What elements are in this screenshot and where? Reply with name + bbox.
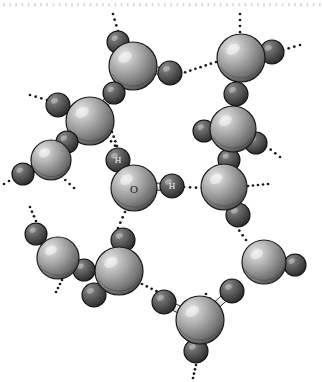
hydrogen-bond-dot (68, 183, 71, 186)
border-dot (158, 3, 160, 6)
border-dot (276, 3, 278, 6)
border-dot (28, 3, 30, 6)
border-dot (3, 3, 5, 6)
border-dot (65, 3, 67, 6)
hydrogen-bond-dot (204, 64, 207, 67)
hydrogen-bond-dot (239, 25, 242, 28)
hydrogen-bond-dot (238, 229, 241, 232)
hydrogen-bond-dot (35, 220, 38, 223)
hydrogen-bond-dot (239, 31, 242, 34)
oxygen-atom (37, 237, 79, 279)
hydrogen-bond-dot (29, 206, 32, 209)
hydrogen-bond-dot (115, 24, 118, 27)
oxygen-atom (201, 164, 247, 210)
border-dot (226, 3, 228, 6)
hydrogen-bond-dot (184, 71, 187, 74)
hydrogen-bond-dot (287, 47, 290, 50)
hydrogen-bond-dot (262, 183, 265, 186)
hydrogen-atom (103, 82, 125, 104)
hydrogen-bond-dot (8, 180, 11, 183)
hydrogen-bond-dot (121, 216, 124, 219)
hydrogen-bond-dot (55, 291, 58, 294)
hydrogen-bond-dot (239, 19, 242, 22)
border-dot (71, 3, 73, 6)
hydrogen-bond-dot (269, 148, 272, 151)
hydrogen-bond-dot (119, 221, 122, 224)
hydrogen-bond-dot (192, 377, 195, 380)
border-dot (232, 3, 234, 6)
border-dot (319, 3, 321, 6)
hydrogen-bond-dot (29, 94, 32, 97)
border-dot (46, 3, 48, 6)
border-dot (189, 3, 191, 6)
hydrogen-bond-dot (113, 18, 116, 21)
border-dot (146, 3, 148, 6)
oxygen-atom (217, 34, 265, 82)
hydrogen-bond-dot (31, 210, 34, 213)
hydrogen-bond-dot (299, 44, 302, 47)
hydrogen-atom (46, 93, 70, 117)
hydrogen-bond-dot (193, 372, 196, 375)
hydrogen-bond-dot (114, 140, 117, 143)
hydrogen-bond-dot (73, 187, 76, 190)
oxygen-atom (95, 247, 143, 295)
hydrogen-bond-dot (189, 69, 192, 72)
hydrogen-bond-dot (195, 186, 198, 189)
hydrogen-bond-dot (59, 283, 62, 286)
border-dot (133, 3, 135, 6)
border-dot (84, 3, 86, 6)
border-dot (251, 3, 253, 6)
hydrogen-bond-dot (199, 66, 202, 69)
border-dot (127, 3, 129, 6)
border-dot (300, 3, 302, 6)
hydrogen-bond-dot (267, 183, 270, 186)
border-dot (53, 3, 55, 6)
hydrogen-label: H (169, 181, 176, 191)
hydrogen-bond-dot (257, 184, 260, 187)
hydrogen-bond-dot (245, 239, 248, 242)
border-dot (263, 3, 265, 6)
oxygen-label: O (130, 183, 138, 195)
hydrogen-bond-dot (112, 135, 115, 138)
hydrogen-atom (152, 290, 176, 314)
hydrogen-bond-dot (145, 285, 148, 288)
hydrogen-bond-dot (252, 184, 255, 187)
border-dot (139, 3, 141, 6)
hydrogen-bond-dot (116, 145, 119, 148)
border-dot (115, 3, 117, 6)
oxygen-atom (210, 106, 256, 152)
hydrogen-bond-dot (241, 234, 244, 237)
border-dot (34, 3, 36, 6)
border-dot (257, 3, 259, 6)
border-dot (108, 3, 110, 6)
hydrogen-atom (12, 163, 34, 185)
hydrogen-bond-dot (293, 45, 296, 48)
hydrogen-label: H (115, 155, 122, 165)
hydrogen-bond-dot (195, 364, 198, 367)
border-dot (245, 3, 247, 6)
hydrogen-bond-dot (274, 152, 277, 155)
hydrogen-bond-dot (141, 283, 144, 286)
hydrogen-bond-dot (210, 62, 213, 65)
hydrogen-bond-dot (40, 97, 43, 100)
border-dot (121, 3, 123, 6)
border-dot (77, 3, 79, 6)
hydrogen-bond-dot (205, 293, 208, 296)
water-network-figure: OHH Hydrogen-bonded water network O H Ce… (0, 0, 322, 382)
border-dot (90, 3, 92, 6)
hydrogen-bond-dot (110, 140, 113, 143)
hydrogen-atom (284, 254, 306, 276)
hydrogen-bond-dot (112, 13, 115, 16)
molecule-canvas: OHH (0, 0, 322, 382)
hydrogen-bond-dot (194, 68, 197, 71)
border-dot (152, 3, 154, 6)
border-dot (15, 3, 17, 6)
border-dot (164, 3, 166, 6)
border-dot (220, 3, 222, 6)
hydrogen-bond-dot (239, 13, 242, 16)
oxygen-atom (31, 140, 71, 180)
hydrogen-bond-dot (3, 183, 6, 186)
border-dot (307, 3, 309, 6)
border-dot (239, 3, 241, 6)
hydrogen-bond-dot (34, 95, 37, 98)
